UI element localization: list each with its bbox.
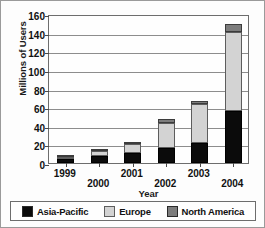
bar-segment-europe xyxy=(225,32,242,111)
x-axis-tick-label: 2001 xyxy=(121,168,143,179)
y-axis-tick-label: 160 xyxy=(3,11,49,22)
legend-entry: Asia-Pacific xyxy=(22,206,88,217)
x-axis-tick-mark xyxy=(233,163,234,167)
x-axis-tick-label: 2004 xyxy=(221,178,243,189)
bar-segment-asia-pacific xyxy=(158,148,175,163)
x-axis-tick-label: 1999 xyxy=(54,168,76,179)
y-axis-tick-mark xyxy=(45,53,49,54)
legend-swatch-icon xyxy=(167,206,178,217)
gridline xyxy=(49,91,248,92)
legend-swatch-icon xyxy=(104,206,115,217)
y-axis-tick-label: 20 xyxy=(3,141,49,152)
bar-2002 xyxy=(158,119,175,163)
y-axis-tick-mark xyxy=(45,16,49,17)
gridline xyxy=(49,35,248,36)
y-axis-tick-label: 80 xyxy=(3,85,49,96)
y-axis-tick-label: 60 xyxy=(3,104,49,115)
y-axis-tick-label: 140 xyxy=(3,29,49,40)
y-axis-tick-label: 40 xyxy=(3,122,49,133)
y-axis-tick-mark xyxy=(45,72,49,73)
bar-2001 xyxy=(124,142,141,163)
y-axis-tick-label: 120 xyxy=(3,48,49,59)
chart-legend: Asia-PacificEuropeNorth America xyxy=(10,201,256,221)
y-axis-tick-mark xyxy=(45,35,49,36)
legend-swatch-icon xyxy=(22,206,33,217)
bar-segment-asia-pacific xyxy=(91,156,108,163)
y-axis-tick-label: 100 xyxy=(3,66,49,77)
legend-entry: Europe xyxy=(104,206,151,217)
bar-segment-asia-pacific xyxy=(124,153,141,163)
x-axis-tick-mark xyxy=(166,163,167,167)
y-axis-tick-mark xyxy=(45,165,49,166)
x-axis-tick-mark xyxy=(133,163,134,167)
x-axis-tick-mark xyxy=(66,163,67,167)
x-axis-tick-mark xyxy=(99,163,100,167)
y-axis-tick-label: 0 xyxy=(3,160,49,171)
y-axis-tick-mark xyxy=(45,109,49,110)
x-axis-tick-mark xyxy=(200,163,201,167)
bar-2004 xyxy=(225,24,242,163)
y-axis-tick-mark xyxy=(45,91,49,92)
bar-segment-asia-pacific xyxy=(191,143,208,163)
gridline xyxy=(49,109,248,110)
bar-segment-asia-pacific xyxy=(225,111,242,163)
bar-segment-north-america xyxy=(225,24,242,31)
legend-entry: North America xyxy=(167,206,245,217)
y-axis-tick-mark xyxy=(45,128,49,129)
x-axis-tick-label: 2003 xyxy=(188,168,210,179)
x-axis-title: Year xyxy=(48,188,249,199)
gridline xyxy=(49,72,248,73)
bar-segment-europe xyxy=(124,144,141,152)
chart-figure: Millions of Users 020406080100120140160 … xyxy=(0,0,265,228)
bar-segment-europe xyxy=(191,104,208,143)
plot-area: 020406080100120140160 xyxy=(48,15,249,164)
y-axis-tick-mark xyxy=(45,146,49,147)
legend-label: Europe xyxy=(119,206,151,217)
legend-label: Asia-Pacific xyxy=(37,206,88,217)
x-axis-tick-label: 2002 xyxy=(154,178,176,189)
gridline xyxy=(49,128,248,129)
gridline xyxy=(49,146,248,147)
bar-2000 xyxy=(91,149,108,163)
x-axis-tick-label: 2000 xyxy=(87,178,109,189)
gridline xyxy=(49,53,248,54)
legend-label: North America xyxy=(182,206,245,217)
bar-2003 xyxy=(191,101,208,163)
bar-segment-europe xyxy=(158,123,175,148)
bar-1999 xyxy=(57,155,74,164)
